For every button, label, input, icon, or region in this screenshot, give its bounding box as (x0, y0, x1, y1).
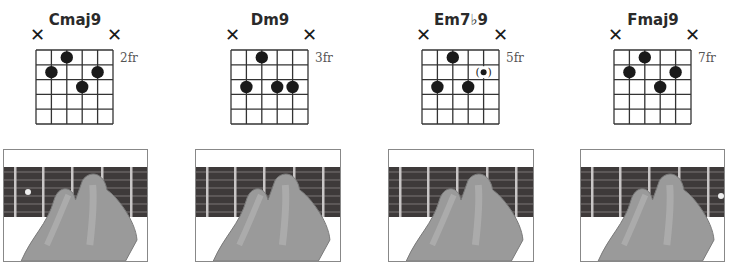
svg-text:): ) (488, 66, 492, 79)
finger-dot (61, 51, 73, 63)
finger-dot (91, 66, 103, 78)
mute-x-icon: ✕ (416, 26, 431, 44)
finger-dot (76, 81, 88, 93)
mute-x-icon: ✕ (302, 26, 317, 44)
mute-x-icon: ✕ (493, 26, 508, 44)
fretboard-grid (34, 49, 116, 129)
optional-finger-dot (481, 69, 487, 75)
finger-dot (639, 51, 651, 63)
mute-x-icon: ✕ (225, 26, 240, 44)
finger-dot (462, 81, 474, 93)
finger-dot (240, 81, 252, 93)
mute-x-icon: ✕ (685, 26, 700, 44)
chord-photo (195, 149, 341, 262)
fret-position-label: 7fr (698, 51, 716, 65)
finger-dot (256, 51, 268, 63)
finger-dot (654, 81, 666, 93)
finger-dot (286, 81, 298, 93)
finger-dot (271, 81, 283, 93)
finger-dot (45, 66, 57, 78)
svg-text:(: ( (476, 66, 480, 79)
mute-x-icon: ✕ (107, 26, 122, 44)
chord-photo (388, 149, 534, 262)
fret-position-label: 3fr (315, 51, 333, 65)
fret-position-label: 2fr (120, 51, 138, 65)
mute-x-icon: ✕ (608, 26, 623, 44)
finger-dot (623, 66, 635, 78)
finger-dot (669, 66, 681, 78)
fretboard-grid: () (420, 49, 502, 129)
fret-position-label: 5fr (506, 51, 524, 65)
chord-photo (3, 149, 148, 262)
mute-x-icon: ✕ (30, 26, 45, 44)
finger-dot (431, 81, 443, 93)
finger-dot (447, 51, 459, 63)
fretboard-grid (612, 49, 694, 129)
fretboard-grid (229, 49, 311, 129)
chord-photo (580, 149, 725, 262)
